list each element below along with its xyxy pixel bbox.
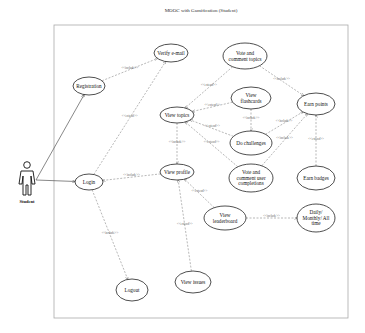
use-case-label: View profile (164, 169, 191, 175)
use-cases: RegistrationVerify e-mailLoginLogoutView… (73, 43, 335, 301)
use-case-view-topics[interactable]: View topics (160, 107, 194, 123)
association-relation-line (36, 180, 75, 181)
association-relation-line (36, 95, 84, 180)
use-case-label: View issues (181, 279, 206, 285)
include-stereotype-label: <<include>> (102, 231, 119, 235)
diagram-title: MOOC with Gamification (Student) (165, 8, 238, 13)
use-case-label: flashcards (240, 98, 261, 104)
use-case-label: Earn points (304, 101, 328, 107)
use-case-label: leaderboard (213, 218, 238, 224)
include-stereotype-label: <<include>> (123, 173, 140, 177)
extend-stereotype-label: <<extend>> (205, 103, 221, 107)
actor-icon (19, 162, 35, 195)
use-case-label: Registration (76, 83, 102, 89)
extend-stereotype-label: <<extend>> (192, 189, 208, 193)
use-case-label: Do challenges (236, 140, 266, 146)
include-stereotype-label: <<include>> (276, 136, 293, 140)
use-case-daily-monthly[interactable]: Daily/Monthly/ Alltime (297, 204, 335, 232)
use-case-view-issues[interactable]: View issues (175, 271, 211, 293)
use-case-verify-email[interactable]: Verify e-mail (154, 44, 188, 62)
use-case-vote-comment-user[interactable]: Vote andcomment usercompletions (229, 164, 273, 192)
use-case-vote-comment-topics[interactable]: Vote andcomment topics (223, 43, 267, 69)
use-case-do-challenges[interactable]: Do challenges (230, 131, 272, 155)
use-case-earn-points[interactable]: Earn points (297, 93, 335, 115)
extend-stereotype-label: <<extend>> (204, 124, 220, 128)
extend-stereotype-label: <<extend>> (177, 222, 193, 226)
use-case-view-profile[interactable]: View profile (160, 164, 194, 180)
use-case-diagram: MOOC with Gamification (Student) <<inclu… (0, 0, 365, 333)
extend-stereotype-label: <<extend>> (204, 140, 220, 144)
extend-stereotype-label: <<extend>> (122, 114, 138, 118)
actor-label: Student (19, 199, 35, 204)
use-case-registration[interactable]: Registration (73, 77, 105, 95)
use-case-label: completions (238, 180, 263, 186)
use-case-label: Earn badges (303, 175, 329, 181)
include-stereotype-label: <<include>> (169, 140, 186, 144)
extend-stereotype-label: <<extend>> (201, 83, 217, 87)
include-stereotype-label: <<include>> (276, 119, 293, 123)
include-stereotype-label: <<include>> (243, 116, 260, 120)
use-case-view-flashcards[interactable]: Viewflashcards (231, 87, 271, 109)
use-case-logout[interactable]: Logout (116, 279, 148, 301)
use-case-earn-badges[interactable]: Earn badges (297, 166, 335, 190)
use-case-label: View topics (165, 112, 190, 118)
use-case-label: Login (83, 179, 96, 185)
use-case-label: time (311, 220, 321, 226)
use-case-label: Verify e-mail (157, 50, 185, 56)
use-case-label: Logout (125, 287, 141, 293)
include-stereotype-label: <<include>> (121, 66, 138, 70)
use-case-label: comment topics (229, 56, 262, 62)
extend-stereotype-label: <<extend>> (308, 137, 324, 141)
include-stereotype-label: <<include>> (273, 77, 290, 81)
include-stereotype-label: <<include>> (263, 214, 280, 218)
use-case-view-leaderboard[interactable]: Viewleaderboard (204, 206, 246, 230)
use-case-login[interactable]: Login (75, 174, 103, 190)
actor-student[interactable]: Student (19, 162, 35, 204)
